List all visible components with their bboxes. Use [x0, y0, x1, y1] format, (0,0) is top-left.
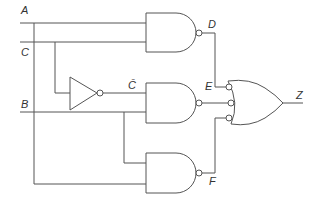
or-bubble-1: [226, 84, 232, 90]
wire-f: [202, 118, 226, 173]
nand3-bubble: [196, 170, 202, 176]
wire-c-to-not: [55, 42, 70, 93]
label-f: F: [209, 176, 216, 187]
label-c-bar: C̄: [128, 80, 136, 91]
or-bubble-3: [226, 115, 232, 121]
nand1-bubble: [196, 30, 202, 36]
label-a: A: [21, 5, 28, 16]
wire-b-to-nand3: [124, 112, 146, 163]
nand-gate-2: [146, 83, 196, 123]
label-b: B: [21, 99, 28, 110]
label-d: D: [208, 19, 216, 30]
logic-circuit-diagram: [0, 0, 322, 202]
not-bubble: [97, 90, 103, 96]
label-z: Z: [296, 90, 303, 101]
wire-a-to-nand3: [34, 23, 146, 184]
nand2-bubble: [196, 100, 202, 106]
or-bubble-2: [228, 100, 234, 106]
label-c: C: [21, 47, 29, 58]
nand-gate-1: [146, 13, 196, 52]
label-e: E: [205, 81, 212, 92]
or-gate: [228, 80, 283, 124]
wire-d: [202, 33, 226, 87]
not-gate: [70, 77, 97, 110]
nand-gate-3: [146, 153, 196, 193]
